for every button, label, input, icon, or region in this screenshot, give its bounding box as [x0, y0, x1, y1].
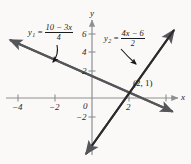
y1-subscript: 1: [32, 32, 35, 38]
equation-label-y1: y1 = 10 − 3x 4: [28, 23, 73, 42]
intersection-point-label: (2, 1): [133, 79, 153, 88]
y2-variable: y: [104, 34, 108, 43]
y1-variable: y: [28, 28, 32, 37]
y1-denominator: 4: [57, 33, 61, 42]
line-y1: [10, 40, 173, 112]
y1-equals-sign: =: [38, 28, 43, 37]
x-tick-label-2: 2: [126, 103, 131, 112]
y-tick-label-4: 4: [82, 48, 87, 57]
y1-fraction: 10 − 3x 4: [45, 23, 74, 42]
y2-subscript: 2: [108, 38, 111, 44]
origin-label: 0: [83, 102, 88, 111]
y1-numerator: 10 − 3x: [45, 23, 74, 32]
x-axis-label: x: [181, 93, 185, 102]
y2-denominator: 2: [131, 39, 135, 48]
equation-label-y2: y2 = 4x − 6 2: [104, 29, 145, 48]
y2-equals-sign: =: [114, 34, 119, 43]
x-tick-label-neg4: −4: [12, 103, 23, 112]
y2-numerator: 4x − 6: [121, 29, 145, 38]
y-axis: [89, 20, 96, 155]
x-tick-label-neg2: −2: [49, 103, 60, 112]
graph-figure: x y −4 −2 2 0 6 4 2 −2 y1 = 10 − 3x 4 y2…: [0, 0, 191, 164]
leader-arrow-y2: [121, 49, 136, 64]
line-y2: [86, 30, 174, 154]
y2-fraction: 4x − 6 2: [121, 29, 145, 48]
y-tick-label-neg2: −2: [76, 113, 87, 122]
y-tick-label-6: 6: [82, 30, 87, 39]
y-axis-label: y: [90, 9, 94, 18]
y-tick-label-2: 2: [82, 67, 87, 76]
